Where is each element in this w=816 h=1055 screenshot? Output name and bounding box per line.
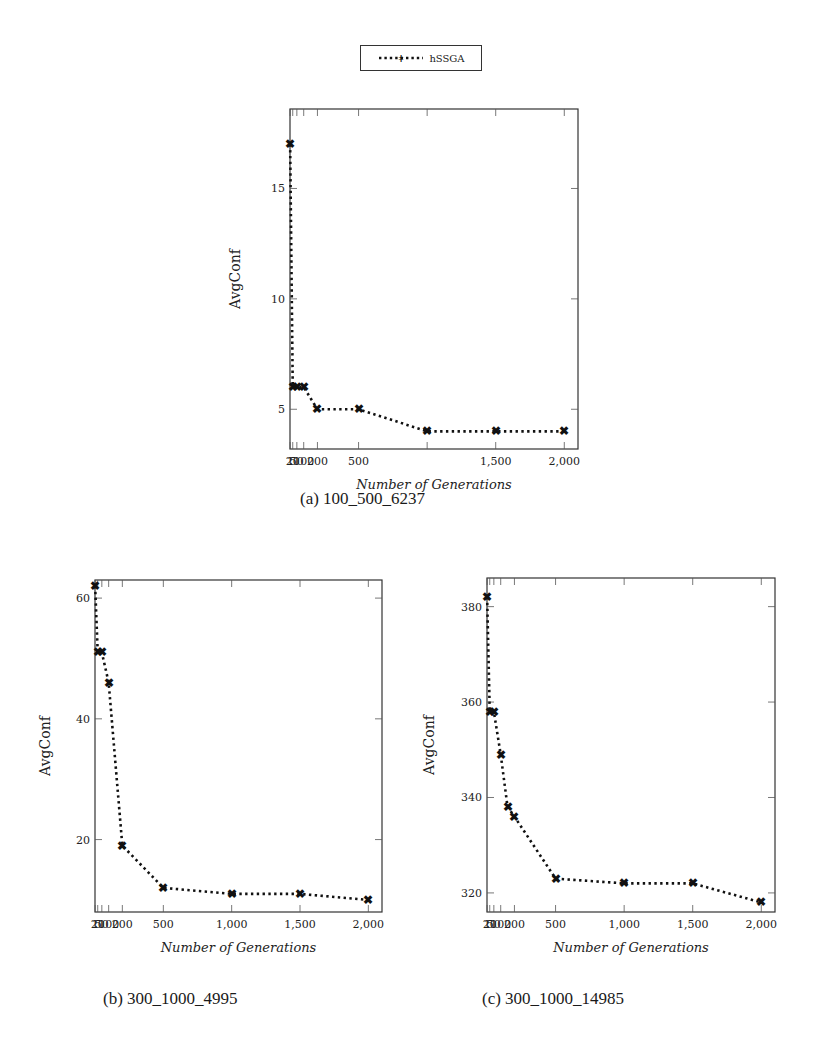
plot-frame bbox=[290, 109, 578, 449]
plot-frame bbox=[95, 580, 382, 912]
y-tick-label: 40 bbox=[76, 713, 90, 726]
y-tick-label: 360 bbox=[461, 696, 482, 709]
series-line-hSSGA bbox=[290, 144, 564, 431]
chart-b-plot: 120501002005001,0001,5002,000204060Numbe… bbox=[37, 579, 384, 955]
y-tick-label: 10 bbox=[271, 293, 285, 306]
data-point-marker: ✖ bbox=[422, 424, 432, 438]
data-point-marker: ✖ bbox=[295, 887, 305, 901]
x-tick-label: 1,000 bbox=[216, 918, 248, 931]
data-point-marker: ✖ bbox=[509, 810, 519, 824]
y-tick-label: 5 bbox=[278, 403, 285, 416]
caption-b: (b) 300_1000_4995 bbox=[103, 989, 238, 1009]
x-tick-label: 200 bbox=[504, 918, 525, 931]
y-tick-label: 20 bbox=[76, 834, 90, 847]
caption-c: (c) 300_1000_14985 bbox=[482, 989, 624, 1009]
y-tick-label: 340 bbox=[461, 791, 482, 804]
x-tick-label: 1,500 bbox=[677, 918, 709, 931]
data-point-marker: ✖ bbox=[227, 887, 237, 901]
data-point-marker: ✖ bbox=[312, 402, 322, 416]
series-line-hSSGA bbox=[487, 597, 761, 902]
data-point-marker: ✖ bbox=[551, 872, 561, 886]
chart-a: 120501002005001,5002,00051015Number of G… bbox=[0, 0, 816, 1055]
x-tick-label: 1,500 bbox=[284, 918, 316, 931]
data-point-marker: ✖ bbox=[158, 881, 168, 895]
series-line-hSSGA bbox=[95, 586, 368, 900]
data-point-marker: ✖ bbox=[491, 424, 501, 438]
data-point-marker: ✖ bbox=[756, 895, 766, 909]
y-tick-label: 60 bbox=[76, 592, 90, 605]
x-tick-label: 500 bbox=[348, 455, 369, 468]
data-point-marker: ✖ bbox=[104, 676, 114, 690]
plot-frame bbox=[487, 578, 775, 912]
data-point-marker: ✖ bbox=[496, 748, 506, 762]
data-point-marker: ✖ bbox=[489, 705, 499, 719]
data-point-marker: ✖ bbox=[285, 137, 295, 151]
x-axis-label: Number of Generations bbox=[552, 940, 709, 955]
y-axis-label: AvgConf bbox=[421, 713, 437, 776]
chart-a-plot: 120501002005001,5002,00051015Number of G… bbox=[227, 109, 580, 492]
y-tick-label: 380 bbox=[461, 601, 482, 614]
data-point-marker: ✖ bbox=[97, 645, 107, 659]
data-point-marker: ✖ bbox=[619, 876, 629, 890]
chart-c-plot: 120501002005001,0001,5002,00032034036038… bbox=[421, 578, 777, 955]
caption-a: (a) 100_500_6237 bbox=[300, 489, 425, 509]
x-tick-label: 1,500 bbox=[480, 455, 512, 468]
data-point-marker: ✖ bbox=[117, 839, 127, 853]
x-tick-label: 2,000 bbox=[353, 918, 385, 931]
data-point-marker: ✖ bbox=[559, 424, 569, 438]
y-axis-label: AvgConf bbox=[37, 714, 53, 777]
x-axis-label: Number of Generations bbox=[160, 940, 317, 955]
x-tick-label: 2,000 bbox=[746, 918, 778, 931]
x-tick-label: 500 bbox=[153, 918, 174, 931]
y-axis-label: AvgConf bbox=[227, 247, 243, 310]
y-tick-label: 320 bbox=[461, 887, 482, 900]
data-point-marker: ✖ bbox=[299, 380, 309, 394]
data-point-marker: ✖ bbox=[90, 579, 100, 593]
x-tick-label: 1,000 bbox=[608, 918, 640, 931]
y-tick-label: 15 bbox=[271, 182, 285, 195]
data-point-marker: ✖ bbox=[363, 893, 373, 907]
x-tick-label: 200 bbox=[112, 918, 133, 931]
data-point-marker: ✖ bbox=[482, 590, 492, 604]
data-point-marker: ✖ bbox=[688, 876, 698, 890]
x-tick-label: 2,000 bbox=[549, 455, 581, 468]
x-tick-label: 500 bbox=[545, 918, 566, 931]
x-tick-label: 200 bbox=[307, 455, 328, 468]
data-point-marker: ✖ bbox=[354, 402, 364, 416]
